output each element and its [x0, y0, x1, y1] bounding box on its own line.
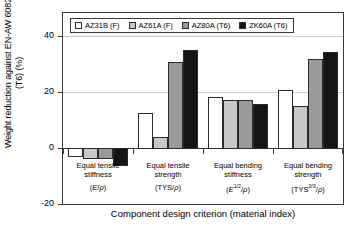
legend-item: AZ61A (F)	[129, 21, 173, 30]
bar	[183, 50, 198, 149]
gridline	[63, 92, 343, 93]
gridline	[63, 36, 343, 37]
category-label-line1: Equal tensile	[77, 161, 120, 170]
category-label-line1: Equal bending	[284, 161, 332, 170]
bar	[153, 137, 168, 149]
category-label-line1: Equal bending	[214, 161, 262, 170]
y-axis-tick-label: 40	[20, 30, 54, 40]
legend-label: AZ80A (T6)	[192, 21, 230, 30]
legend-item: AZ31B (F)	[75, 21, 120, 30]
legend-item: ZK60A (T6)	[239, 21, 287, 30]
bar	[223, 100, 238, 149]
x-axis-tick	[203, 149, 204, 154]
x-axis-tick	[273, 149, 274, 154]
y-axis-tick-mark	[58, 148, 62, 149]
y-axis-tick-mark	[58, 92, 62, 93]
category-label-line1: Equal tensile	[147, 161, 190, 170]
x-axis-category-label: Equal bendingstrength	[263, 161, 353, 179]
legend-label: ZK60A (T6)	[249, 21, 287, 30]
category-label-line2: strength	[294, 170, 321, 179]
bar	[253, 104, 268, 149]
bar	[293, 106, 308, 149]
y-axis-tick-mark	[58, 36, 62, 37]
legend-label: AZ31B (F)	[85, 21, 120, 30]
legend-swatch-icon	[129, 22, 136, 29]
bar	[68, 148, 83, 157]
legend-swatch-icon	[182, 22, 189, 29]
y-axis-tick-label: 20	[20, 86, 54, 96]
legend-swatch-icon	[75, 22, 82, 29]
x-axis-tick	[342, 149, 343, 154]
y-axis-title-line1: Weight reduction against EN-AW 6082	[3, 0, 13, 148]
bar	[83, 148, 98, 159]
legend-label: AZ61A (F)	[139, 21, 173, 30]
category-label-line2: strength	[154, 170, 181, 179]
y-axis-tick-mark	[58, 204, 62, 205]
bar	[323, 52, 338, 149]
x-axis-tick	[133, 149, 134, 154]
bar	[238, 100, 253, 149]
chart-legend: AZ31B (F)AZ61A (F)AZ80A (T6)ZK60A (T6)	[70, 18, 294, 33]
chart-figure: Weight reduction against EN-AW 6082 (T6)…	[0, 0, 354, 226]
y-axis-tick-label: 0	[20, 142, 54, 152]
bar	[308, 59, 323, 149]
bar	[278, 90, 293, 149]
legend-item: AZ80A (T6)	[182, 21, 230, 30]
bar	[168, 62, 183, 149]
x-axis-tick	[63, 149, 64, 154]
y-axis-tick-label: -20	[20, 198, 54, 208]
bar	[138, 113, 153, 149]
category-label-line2: stiffness	[84, 170, 111, 179]
bar	[98, 148, 113, 159]
x-axis-title: Component design criterion (material ind…	[62, 208, 344, 219]
bar	[208, 97, 223, 149]
legend-swatch-icon	[239, 22, 246, 29]
x-axis-material-index-label: (TYS2/3/ρ)	[263, 183, 353, 194]
plot-area: AZ31B (F)AZ61A (F)AZ80A (T6)ZK60A (T6) E…	[62, 12, 344, 205]
category-label-line2: stiffness	[224, 170, 251, 179]
